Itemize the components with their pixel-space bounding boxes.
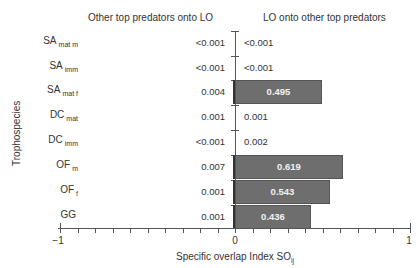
x-axis-tick [270, 228, 271, 233]
left-value: <0.001 [165, 37, 225, 48]
category-label: DCimm [20, 134, 78, 147]
x-axis-tick [218, 228, 219, 233]
left-bar [233, 155, 235, 179]
center-axis-tick [231, 130, 239, 131]
x-axis-tick [253, 228, 254, 233]
left-panel-title: Other top predators onto LO [88, 12, 213, 23]
x-axis-tick [113, 228, 114, 233]
x-axis-title: Specific overlap Index SOij [176, 251, 294, 264]
center-axis-tick [231, 105, 239, 106]
category-base: SA [49, 60, 62, 71]
category-base: GG [60, 209, 76, 220]
category-label: GG [20, 209, 78, 222]
x-axis-tick [340, 228, 341, 233]
x-axis-tick [375, 228, 376, 233]
category-label: DCmat [20, 109, 78, 122]
x-axis-tick [358, 228, 359, 233]
x-axis-tick [200, 228, 201, 233]
category-base: SA [47, 84, 60, 95]
left-value: 0.007 [165, 161, 225, 172]
bar-value-label: 0.495 [235, 86, 322, 97]
category-base: DC [50, 109, 64, 120]
x-axis-tick [95, 228, 96, 233]
x-tick-label-1: 1 [399, 235, 419, 246]
x-axis-tick [393, 228, 394, 233]
left-value: 0.004 [165, 86, 225, 97]
category-base: DC [48, 134, 62, 145]
x-axis-tick [235, 223, 236, 233]
category-base: SA [43, 35, 56, 46]
x-axis-tick [78, 228, 79, 233]
right-value: 0.002 [244, 136, 268, 147]
category-base: OF [56, 159, 70, 170]
x-axis-tick [288, 228, 289, 233]
center-axis-tick [231, 31, 239, 32]
left-value: 0.001 [165, 111, 225, 122]
bar-value-label: 0.436 [235, 211, 311, 222]
bar-value-label: 0.543 [235, 186, 330, 197]
category-subscript: m [72, 165, 78, 172]
left-value: <0.001 [165, 62, 225, 73]
center-axis-tick [231, 56, 239, 57]
left-bar [233, 180, 235, 204]
category-subscript: mat [66, 115, 78, 122]
x-axis-title-subscript: ij [291, 257, 294, 264]
right-value: 0.001 [244, 111, 268, 122]
right-value: <0.001 [244, 62, 273, 73]
category-subscript: mat m [59, 41, 78, 48]
category-label: OFm [20, 159, 78, 172]
left-value: <0.001 [165, 136, 225, 147]
category-subscript: mat f [62, 90, 78, 97]
x-axis-tick [410, 223, 411, 233]
x-axis-tick [60, 223, 61, 233]
right-panel-title: LO onto other top predators [263, 12, 386, 23]
x-axis-tick [183, 228, 184, 233]
x-axis-tick [305, 228, 306, 233]
category-subscript: imm [65, 140, 78, 147]
category-base: OF [60, 184, 74, 195]
x-tick-label-neg1: −1 [48, 235, 68, 246]
left-bar [233, 80, 235, 104]
category-label: SAmat m [20, 35, 78, 48]
x-axis-tick [130, 228, 131, 233]
category-label: SAmat f [20, 84, 78, 97]
left-value: 0.001 [165, 211, 225, 222]
x-axis-tick [165, 228, 166, 233]
category-subscript: imm [65, 66, 78, 73]
x-axis-title-text: Specific overlap Index SO [176, 251, 291, 262]
bar-value-label: 0.619 [235, 161, 343, 172]
x-tick-label-0: 0 [225, 235, 245, 246]
category-subscript: f [76, 190, 78, 197]
category-label: SAimm [20, 60, 78, 73]
x-axis-tick [323, 228, 324, 233]
left-value: 0.001 [165, 186, 225, 197]
right-value: <0.001 [244, 37, 273, 48]
x-axis-tick [148, 228, 149, 233]
category-label: OFf [20, 184, 78, 197]
